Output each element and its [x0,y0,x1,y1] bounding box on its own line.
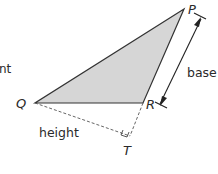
height-label: height [39,125,79,140]
vertex-label-r: R [146,97,155,112]
vertex-label-p: P [188,2,196,17]
triangle-pqr [35,9,184,103]
base-label: base [187,65,217,80]
partial-label-text: nt [0,62,12,76]
vertex-label-t: T [123,143,132,158]
triangle-diagram: nt P Q R T base height [0,0,218,174]
vertex-label-q: Q [16,96,26,111]
extension-line-rt [130,103,143,136]
